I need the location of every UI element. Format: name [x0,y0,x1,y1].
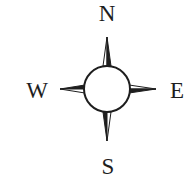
south-pointer-icon [103,112,111,141]
west-pointer-icon [60,85,85,93]
east-label: E [162,79,192,102]
center-circle [84,66,130,112]
north-label: N [92,2,122,25]
north-pointer-icon [103,37,111,66]
east-pointer-icon [129,85,156,93]
compass-rose: N S W E [0,0,196,195]
west-label: W [22,79,52,102]
south-label: S [93,155,123,178]
